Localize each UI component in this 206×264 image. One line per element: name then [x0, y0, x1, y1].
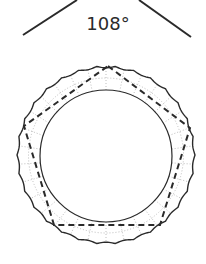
- dotted-spokes: [19, 68, 192, 242]
- outer-wavy-circle: [17, 66, 195, 243]
- angle-line-left: [23, 0, 77, 35]
- pentagon-ring-diagram: 108°: [0, 0, 206, 264]
- angle-label: 108°: [86, 13, 130, 34]
- angle-line-right: [139, 0, 191, 37]
- diagram-canvas: [0, 0, 206, 264]
- inner-circle: [40, 90, 172, 222]
